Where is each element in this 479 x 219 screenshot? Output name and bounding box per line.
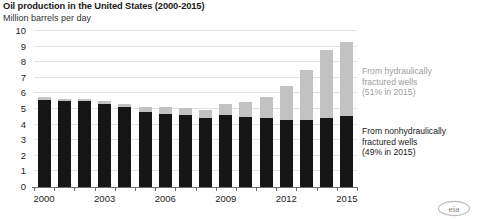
bar-segment-nonhydraulically-fractured [38,100,51,187]
x-axis-line [32,187,357,188]
y-axis-tick-label: 0 [21,182,26,192]
gridline [34,46,357,47]
bar-stack [199,110,212,187]
page-title: Oil production in the United States (200… [3,1,204,11]
x-axis-tick-label: 2012 [276,194,297,204]
gridline [34,30,357,31]
y-axis-tick-label: 9 [21,42,26,52]
bar-segment-hydraulically-fractured [219,104,232,115]
y-axis-tick-label: 7 [21,73,26,83]
y-axis-tick-label: 2 [21,151,26,161]
y-axis-tick-labels: 012345678910 [0,31,30,187]
bar-segment-hydraulically-fractured [38,97,51,99]
bar-segment-hydraulically-fractured [58,99,71,101]
bar-stack [38,97,51,187]
bar-stack [280,86,293,187]
bar-stack [219,104,232,187]
bar-stack [260,97,273,187]
bar-segment-hydraulically-fractured [320,50,333,119]
bar-segment-nonhydraulically-fractured [58,101,71,187]
bar-segment-nonhydraulically-fractured [118,107,131,187]
bar-segment-hydraulically-fractured [239,102,252,117]
bar-stack [340,42,353,187]
x-axis-tick-label: 2006 [155,194,176,204]
bar-stack [300,70,313,187]
bar-stack [159,107,172,187]
x-axis-tick-label: 2000 [34,194,55,204]
bar-stack [98,101,111,187]
x-axis-tick-label: 2003 [94,194,115,204]
plot-area [34,31,357,187]
y-axis-tick-label: 3 [21,135,26,145]
y-axis-tick-label: 10 [15,26,26,36]
x-axis-tick-label: 2009 [215,194,236,204]
bar-segment-nonhydraulically-fractured [199,118,212,187]
bar-segment-hydraulically-fractured [78,99,91,101]
bar-stack [179,108,192,187]
bar-segment-nonhydraulically-fractured [260,118,273,187]
bar-stack [239,102,252,187]
y-axis-tick-label: 4 [21,120,26,130]
bar-segment-hydraulically-fractured [98,101,111,104]
annotation-hydraulically-fractured: From hydraulically fractured wells (51% … [362,66,432,98]
y-axis-tick-label: 1 [21,167,26,177]
bar-segment-hydraulically-fractured [280,86,293,120]
bar-segment-nonhydraulically-fractured [139,112,152,187]
x-axis-tick-labels: 200020032006200920122015 [34,194,364,208]
bar-segment-nonhydraulically-fractured [78,101,91,187]
chart-figure: Oil production in the United States (200… [0,0,479,219]
bar-segment-hydraulically-fractured [199,110,212,119]
bar-segment-nonhydraulically-fractured [179,115,192,187]
bar-segment-nonhydraulically-fractured [340,116,353,187]
y-axis-tick-label: 5 [21,104,26,114]
bar-segment-nonhydraulically-fractured [239,117,252,187]
bar-segment-hydraulically-fractured [179,108,192,115]
y-axis-tick-label: 6 [21,89,26,99]
x-axis-tick [357,187,358,191]
bar-segment-nonhydraulically-fractured [219,115,232,187]
gridline [34,61,357,62]
svg-text:eia: eia [449,204,460,214]
bar-segment-nonhydraulically-fractured [98,104,111,187]
bar-segment-hydraulically-fractured [300,70,313,120]
bar-segment-nonhydraulically-fractured [159,114,172,187]
bar-segment-hydraulically-fractured [118,104,131,108]
annotation-nonhydraulically-fractured: From nonhydraulically fractured wells (4… [362,126,446,158]
chart-subtitle: Million barrels per day [3,13,91,23]
x-axis-tick-label: 2015 [336,194,357,204]
bar-stack [118,104,131,187]
bar-segment-nonhydraulically-fractured [300,120,313,187]
eia-logo: eia [437,200,471,217]
bar-stack [58,99,71,187]
bar-segment-hydraulically-fractured [260,97,273,119]
bar-stack [320,50,333,187]
bar-segment-nonhydraulically-fractured [320,118,333,187]
bar-segment-hydraulically-fractured [139,107,152,112]
y-axis-tick-label: 8 [21,57,26,67]
bar-segment-hydraulically-fractured [159,107,172,113]
bar-segment-nonhydraulically-fractured [280,120,293,187]
bar-stack [139,107,152,187]
bar-stack [78,99,91,187]
bar-segment-hydraulically-fractured [340,42,353,116]
